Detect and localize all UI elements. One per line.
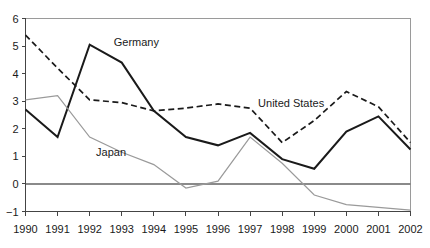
x-tick-label: 1999 xyxy=(302,223,326,235)
chart-canvas: 6543210−1 199019911992199319941995199619… xyxy=(0,0,430,248)
y-tick-label: 4 xyxy=(12,68,18,80)
series-annotations: GermanyUnited StatesJapan xyxy=(96,36,325,158)
chart-frame xyxy=(26,19,411,212)
x-axis: 1990199119921993199419951996199719981999… xyxy=(13,212,422,235)
x-tick-label: 1993 xyxy=(110,223,134,235)
y-tick-label: 3 xyxy=(12,95,18,107)
y-axis: 6543210−1 xyxy=(6,13,26,218)
x-tick-label: 1991 xyxy=(45,223,69,235)
y-tick-label: 2 xyxy=(12,123,18,135)
series-label-united-states: United States xyxy=(258,97,325,109)
x-tick-label: 1994 xyxy=(142,223,166,235)
y-tick-label: 1 xyxy=(12,150,18,162)
y-tick-label: 6 xyxy=(12,13,18,25)
x-tick-label: 2000 xyxy=(334,223,358,235)
x-tick-label: 1997 xyxy=(238,223,262,235)
line-chart: 6543210−1 199019911992199319941995199619… xyxy=(0,0,430,248)
y-tick-label: −1 xyxy=(6,206,19,218)
x-tick-label: 1992 xyxy=(77,223,101,235)
x-tick-label: 1990 xyxy=(13,223,37,235)
x-tick-label: 1996 xyxy=(206,223,230,235)
series-label-germany: Germany xyxy=(114,36,160,48)
series-line-japan xyxy=(26,96,411,210)
series-line-germany xyxy=(26,45,411,169)
x-tick-label: 1995 xyxy=(174,223,198,235)
y-tick-label: 0 xyxy=(12,178,18,190)
x-tick-label: 1998 xyxy=(270,223,294,235)
x-tick-label: 2001 xyxy=(366,223,390,235)
series-label-japan: Japan xyxy=(96,146,126,158)
y-tick-label: 5 xyxy=(12,40,18,52)
series-line-united-states xyxy=(26,35,411,143)
x-tick-label: 2002 xyxy=(398,223,422,235)
